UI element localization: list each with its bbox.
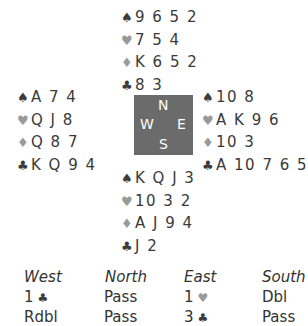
south-diamonds: ♦A J 9 4 bbox=[121, 212, 195, 235]
header-north: North bbox=[105, 268, 147, 286]
east-hand: ♠10 8 ♥A K 9 6 ♦10 3 ♣A 10 7 6 5 bbox=[202, 86, 308, 176]
south-clubs-cards: J 2 bbox=[135, 237, 158, 255]
east-hearts-cards: A K 9 6 bbox=[216, 111, 280, 129]
header-south: South bbox=[262, 268, 306, 286]
south-clubs: ♣J 2 bbox=[121, 235, 195, 258]
east-spades-cards: 10 8 bbox=[216, 88, 255, 106]
north-diamonds-cards: K 6 5 2 bbox=[135, 53, 198, 71]
header-east: East bbox=[184, 268, 216, 286]
south-hearts-cards: 10 3 2 bbox=[135, 192, 192, 210]
north-spades: ♠9 6 5 2 bbox=[121, 6, 198, 29]
compass-south: S bbox=[159, 136, 168, 152]
east-diamonds: ♦10 3 bbox=[202, 131, 308, 154]
heart-icon: ♥ bbox=[202, 110, 216, 133]
club-icon: ♣ bbox=[202, 155, 216, 178]
bid: Rdbl bbox=[24, 308, 58, 326]
west-clubs: ♣K Q 9 4 bbox=[17, 154, 97, 177]
north-hearts-cards: 7 5 4 bbox=[135, 31, 181, 49]
north-hearts: ♥7 5 4 bbox=[121, 29, 198, 52]
bid-level: 1 bbox=[24, 288, 34, 306]
header-west: West bbox=[24, 268, 62, 286]
heart-icon: ♥ bbox=[17, 110, 31, 133]
north-spades-cards: 9 6 5 2 bbox=[135, 8, 198, 26]
compass-east: E bbox=[177, 116, 186, 132]
spade-icon: ♠ bbox=[121, 168, 135, 191]
west-diamonds: ♦Q 8 7 bbox=[17, 131, 97, 154]
spade-icon: ♠ bbox=[17, 87, 31, 110]
bid-level: 3 bbox=[184, 308, 194, 326]
north-clubs: ♣8 3 bbox=[121, 74, 198, 97]
spade-icon: ♠ bbox=[121, 7, 135, 30]
bid-level: 1 bbox=[184, 288, 194, 306]
bid: 3♣ bbox=[184, 308, 208, 326]
bid: 1♣ bbox=[24, 288, 48, 306]
north-clubs-cards: 8 3 bbox=[135, 76, 163, 94]
bid: 1♥ bbox=[184, 288, 208, 306]
diamond-icon: ♦ bbox=[121, 213, 135, 236]
diamond-icon: ♦ bbox=[121, 52, 135, 75]
south-spades: ♠K Q J 3 bbox=[121, 167, 195, 190]
north-hand: ♠9 6 5 2 ♥7 5 4 ♦K 6 5 2 ♣8 3 bbox=[121, 6, 198, 96]
east-diamonds-cards: 10 3 bbox=[216, 133, 255, 151]
club-icon: ♣ bbox=[38, 291, 49, 305]
compass-north: N bbox=[158, 97, 168, 113]
west-clubs-cards: K Q 9 4 bbox=[31, 156, 97, 174]
compass-west: W bbox=[140, 116, 154, 132]
bid: Pass bbox=[262, 308, 295, 326]
compass-box: N W E S bbox=[134, 95, 193, 155]
east-hearts: ♥A K 9 6 bbox=[202, 109, 308, 132]
auction-round: Rdbl Pass 3♣ Pass bbox=[0, 308, 305, 326]
south-hand: ♠K Q J 3 ♥10 3 2 ♦A J 9 4 ♣J 2 bbox=[121, 167, 195, 257]
diamond-icon: ♦ bbox=[202, 132, 216, 155]
club-icon: ♣ bbox=[121, 236, 135, 259]
auction-round: 1♣ Pass 1♥ Dbl bbox=[0, 288, 305, 308]
west-spades-cards: A 7 4 bbox=[31, 88, 77, 106]
west-hearts: ♥Q J 8 bbox=[17, 109, 97, 132]
west-diamonds-cards: Q 8 7 bbox=[31, 133, 79, 151]
heart-icon: ♥ bbox=[121, 191, 135, 214]
spade-icon: ♠ bbox=[202, 87, 216, 110]
club-icon: ♣ bbox=[121, 75, 135, 98]
east-spades: ♠10 8 bbox=[202, 86, 308, 109]
east-clubs: ♣A 10 7 6 5 bbox=[202, 154, 308, 177]
bid: Pass bbox=[104, 288, 137, 306]
heart-icon: ♥ bbox=[198, 291, 209, 305]
diamond-icon: ♦ bbox=[17, 132, 31, 155]
heart-icon: ♥ bbox=[121, 30, 135, 53]
east-clubs-cards: A 10 7 6 5 bbox=[216, 156, 308, 174]
auction-header: West North East South bbox=[0, 268, 305, 288]
club-icon: ♣ bbox=[198, 311, 209, 325]
west-spades: ♠A 7 4 bbox=[17, 86, 97, 109]
bid: Dbl bbox=[262, 288, 287, 306]
south-diamonds-cards: A J 9 4 bbox=[135, 214, 194, 232]
bid: Pass bbox=[104, 308, 137, 326]
north-diamonds: ♦K 6 5 2 bbox=[121, 51, 198, 74]
south-hearts: ♥10 3 2 bbox=[121, 190, 195, 213]
south-spades-cards: K Q J 3 bbox=[135, 169, 195, 187]
west-hearts-cards: Q J 8 bbox=[31, 111, 74, 129]
west-hand: ♠A 7 4 ♥Q J 8 ♦Q 8 7 ♣K Q 9 4 bbox=[17, 86, 97, 176]
club-icon: ♣ bbox=[17, 155, 31, 178]
